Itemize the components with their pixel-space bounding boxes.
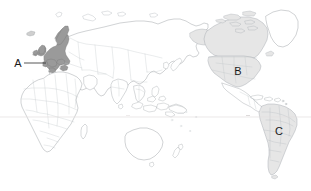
world-map-svg: A B C	[0, 0, 311, 191]
label-b: B	[234, 65, 241, 77]
world-map-figure: A B C	[0, 0, 311, 191]
label-a: A	[14, 57, 22, 69]
label-c: C	[275, 125, 283, 137]
